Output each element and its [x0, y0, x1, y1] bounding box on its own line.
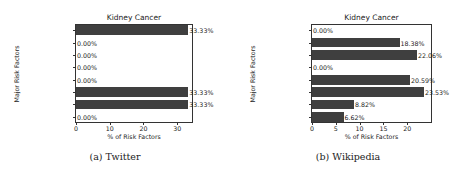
y-tick — [309, 104, 311, 105]
y-tick — [73, 117, 75, 118]
value-label: 23.53% — [425, 89, 449, 96]
value-label: 8.82% — [355, 101, 375, 108]
y-tick — [73, 80, 75, 81]
bar — [76, 25, 188, 35]
figure-caption: (a) Twitter — [89, 151, 140, 162]
x-tick-label: 5 — [334, 125, 338, 132]
bar — [312, 100, 354, 110]
value-label: 0.00% — [313, 64, 333, 71]
x-tick-label: 0 — [310, 125, 314, 132]
y-tick — [309, 92, 311, 93]
x-tick-label: 30 — [173, 125, 181, 132]
bar — [312, 87, 424, 97]
value-label: 33.33% — [189, 101, 213, 108]
chart-title: Kidney Cancer — [107, 13, 161, 22]
bar — [312, 50, 417, 60]
y-tick — [309, 117, 311, 118]
value-label: 22.06% — [418, 51, 442, 58]
y-tick — [73, 104, 75, 105]
chart-title: Kidney Cancer — [344, 13, 398, 22]
value-label: 6.62% — [345, 113, 365, 120]
value-label: 0.00% — [313, 27, 333, 34]
y-tick — [309, 55, 311, 56]
x-tick-label: 20 — [139, 125, 147, 132]
value-label: 0.00% — [77, 64, 97, 71]
figure-caption: (b) Wikipedia — [316, 151, 380, 162]
x-tick-label: 20 — [403, 125, 411, 132]
x-tick-label: 15 — [379, 125, 387, 132]
y-tick — [309, 80, 311, 81]
x-tick-label: 0 — [74, 125, 78, 132]
value-label: 20.59% — [411, 76, 435, 83]
y-tick — [309, 30, 311, 31]
y-tick — [73, 43, 75, 44]
bar — [312, 75, 410, 85]
value-label: 0.00% — [77, 113, 97, 120]
x-tick-label: 10 — [356, 125, 364, 132]
value-label: 33.33% — [189, 89, 213, 96]
y-tick — [309, 43, 311, 44]
x-tick-label: 10 — [106, 125, 114, 132]
y-tick — [73, 30, 75, 31]
bar — [76, 100, 188, 110]
x-axis-label: % of Risk Factors — [345, 133, 399, 140]
value-label: 0.00% — [77, 76, 97, 83]
bar — [312, 38, 400, 48]
y-tick — [73, 55, 75, 56]
y-tick — [309, 67, 311, 68]
bar — [76, 87, 188, 97]
y-tick — [73, 92, 75, 93]
y-axis-label: Major Risk Factors — [249, 45, 256, 102]
value-label: 0.00% — [77, 51, 97, 58]
value-label: 0.00% — [77, 39, 97, 46]
x-axis-label: % of Risk Factors — [107, 133, 161, 140]
value-label: 18.38% — [401, 39, 425, 46]
value-label: 33.33% — [189, 27, 213, 34]
bar — [312, 112, 344, 122]
y-tick — [73, 67, 75, 68]
y-axis-label: Major Risk Factors — [13, 45, 20, 102]
